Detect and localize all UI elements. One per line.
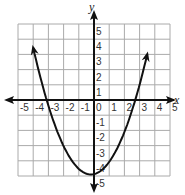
y-tick-label: 1 [96, 87, 102, 98]
x-tick-label: 3 [142, 102, 148, 113]
x-tick-label: 4 [157, 102, 163, 113]
y-axis-label: y [88, 0, 95, 14]
x-tick-label: -2 [66, 102, 75, 113]
y-tick-label: -2 [96, 132, 105, 143]
y-tick-label: -5 [96, 178, 105, 189]
x-tick-label: -3 [50, 102, 59, 113]
x-tick-label: -4 [35, 102, 44, 113]
y-tick-label: -3 [96, 148, 105, 159]
x-tick-label: -1 [81, 102, 90, 113]
x-tick-label: 1 [111, 102, 117, 113]
x-tick-label: 0 [96, 102, 102, 113]
y-tick-label: 4 [96, 41, 102, 52]
x-tick-label: -5 [20, 102, 29, 113]
axes [4, 10, 176, 193]
y-tick-label: 2 [96, 72, 102, 83]
y-tick-label: 3 [96, 56, 102, 67]
y-tick-label: -1 [96, 117, 105, 128]
x-axis-label: x [173, 93, 180, 107]
coordinate-plane: -5-4-3-2-101234554321-1-2-3-4-5 x y [0, 0, 185, 195]
y-tick-label: 5 [96, 26, 102, 37]
